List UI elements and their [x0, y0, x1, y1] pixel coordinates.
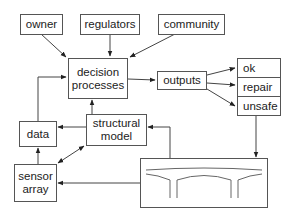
- arrow-decision-outputs: [128, 79, 155, 80]
- arrow-outputs-repair: [207, 83, 235, 85]
- regulators-label: regulators: [84, 18, 135, 31]
- arrow-model-sensor: [58, 146, 84, 163]
- owner-label: owner: [26, 18, 57, 31]
- structural-model-box: structural model: [86, 114, 147, 146]
- outcomes-stack: ok repair unsafe: [237, 58, 281, 116]
- decision-label-line2: processes: [72, 79, 124, 92]
- outputs-label: outputs: [163, 74, 201, 87]
- decision-processes-box: decision processes: [68, 58, 128, 99]
- arrow-outputs-unsafe: [207, 89, 235, 106]
- arrow-bridge-model: [148, 127, 170, 158]
- sensor-array-box: sensor array: [14, 164, 57, 202]
- decision-label-line1: decision: [77, 66, 119, 79]
- outcome-ok: ok: [238, 59, 280, 78]
- community-label: community: [164, 18, 220, 31]
- regulators-box: regulators: [80, 14, 140, 35]
- data-label: data: [27, 128, 49, 141]
- sensor-array-line1: sensor: [18, 170, 53, 183]
- arrow-outputs-ok: [207, 68, 235, 75]
- arrow-community-decision: [130, 34, 175, 57]
- outcome-repair: repair: [238, 78, 280, 97]
- sensor-array-line2: array: [22, 183, 48, 196]
- structural-model-line2: model: [101, 130, 132, 143]
- owner-box: owner: [20, 14, 63, 35]
- arrow-data-decision: [38, 77, 66, 121]
- community-box: community: [158, 14, 225, 35]
- data-box: data: [19, 121, 57, 147]
- outputs-box: outputs: [157, 71, 207, 90]
- bridge-box: [141, 159, 268, 208]
- outcome-unsafe: unsafe: [238, 97, 280, 116]
- structural-model-line1: structural: [93, 117, 140, 130]
- arrow-owner-decision: [41, 34, 66, 57]
